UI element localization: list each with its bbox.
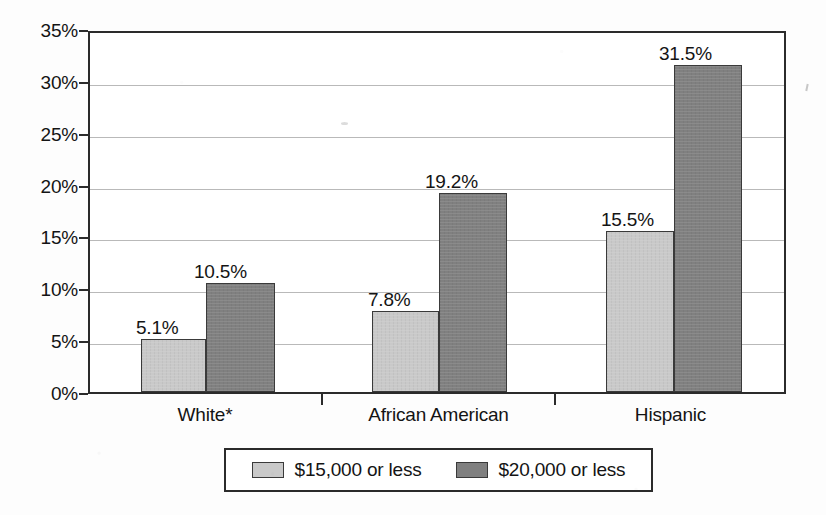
y-tick-mark-10	[79, 289, 88, 291]
y-axis-label-25: 25%	[8, 124, 78, 146]
bar-hispanic-20000[interactable]	[674, 65, 742, 392]
legend-item-20000[interactable]: $20,000 or less	[456, 459, 626, 481]
x-axis-label-african-american: African American	[322, 404, 555, 426]
legend-item-15000[interactable]: $15,000 or less	[252, 459, 422, 481]
value-label-white-20000: 10.5%	[194, 261, 247, 283]
scan-speck	[341, 122, 348, 125]
legend-swatch-icon-20000	[456, 462, 488, 478]
value-label-hispanic-20000: 31.5%	[659, 43, 712, 65]
legend: $15,000 or less $20,000 or less	[224, 448, 653, 492]
y-axis-label-0: 0%	[8, 383, 78, 405]
y-tick-mark-15	[79, 237, 88, 239]
y-axis-label-5: 5%	[8, 331, 78, 353]
bar-hispanic-15000[interactable]	[606, 231, 674, 392]
x-axis-label-white: White*	[88, 404, 322, 426]
y-axis-label-15: 15%	[8, 227, 78, 249]
y-axis-label-30: 30%	[8, 72, 78, 94]
y-tick-mark-25	[79, 134, 88, 136]
y-axis-label-10: 10%	[8, 279, 78, 301]
bar-texture	[142, 340, 205, 391]
y-tick-mark-20	[79, 186, 88, 188]
value-label-african-american-15000: 7.8%	[368, 289, 411, 311]
bar-texture	[675, 66, 741, 391]
bar-texture	[207, 284, 274, 391]
bar-texture	[607, 232, 673, 391]
plot-area	[88, 31, 786, 394]
y-tick-mark-0	[79, 393, 88, 395]
legend-label-15000: $15,000 or less	[295, 459, 422, 481]
value-label-african-american-20000: 19.2%	[425, 171, 478, 193]
value-label-hispanic-15000: 15.5%	[601, 209, 654, 231]
y-axis-label-20: 20%	[8, 176, 78, 198]
bar-texture	[440, 194, 506, 391]
y-tick-mark-35	[79, 30, 88, 32]
legend-swatch-icon-15000	[252, 462, 284, 478]
y-tick-mark-30	[79, 82, 88, 84]
y-tick-mark-5	[79, 341, 88, 343]
bar-african-american-15000[interactable]	[372, 311, 439, 392]
scan-speck	[805, 84, 808, 91]
y-axis-label-35: 35%	[8, 20, 78, 42]
x-axis-label-hispanic: Hispanic	[555, 404, 786, 426]
bar-white-15000[interactable]	[141, 339, 206, 392]
bar-white-20000[interactable]	[206, 283, 275, 392]
bar-texture	[373, 312, 438, 391]
legend-label-20000: $20,000 or less	[499, 459, 626, 481]
bar-chart: 35% 30% 25% 20% 15% 10% 5% 0% 5.1% 10.5%…	[0, 0, 826, 515]
bar-african-american-20000[interactable]	[439, 193, 507, 392]
value-label-white-15000: 5.1%	[136, 317, 179, 339]
